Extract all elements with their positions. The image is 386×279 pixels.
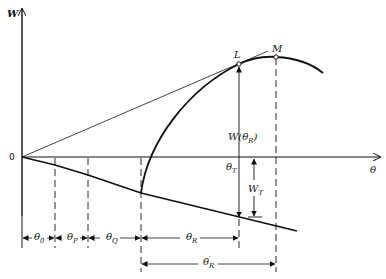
interval-theta-r: θR — [186, 232, 197, 246]
interval-theta-r-prime: θ′R — [203, 257, 214, 271]
diagram-canvas: W θ 0 L M W(θR) θT WT θ0 θP θQ θR θ′R — [0, 0, 386, 279]
w-t-label: WT — [248, 184, 263, 198]
w-theta-r-label: W(θR) — [228, 132, 257, 146]
w-t-main: W — [248, 183, 258, 194]
interval-theta-r-prime-sup: ′ — [209, 254, 211, 264]
interval-theta-p: θP — [67, 232, 78, 246]
interval-theta-q: θQ — [106, 232, 118, 246]
y-axis-label: W — [7, 9, 18, 19]
interval-theta-0: θ0 — [34, 232, 45, 246]
interval-theta-r-sub: R — [192, 237, 197, 245]
point-l — [237, 62, 241, 66]
point-l-label: L — [234, 50, 241, 60]
interval-theta-0-sub: 0 — [40, 237, 44, 245]
interval-theta-p-sub: P — [73, 237, 78, 245]
point-m-label: M — [272, 44, 282, 54]
w-t-sub: T — [258, 189, 263, 197]
w-theta-r-close: ) — [253, 131, 257, 142]
origin-label: 0 — [9, 152, 15, 162]
w-theta-r-main: W(θ — [228, 131, 248, 142]
point-m — [274, 55, 278, 59]
interval-theta-q-sub: Q — [112, 237, 118, 245]
theta-t-label: θT — [226, 162, 237, 176]
theta-t-sub: T — [232, 167, 237, 175]
x-axis-label: θ — [370, 165, 376, 175]
interval-theta-r-prime-sub: ′R — [209, 262, 214, 270]
